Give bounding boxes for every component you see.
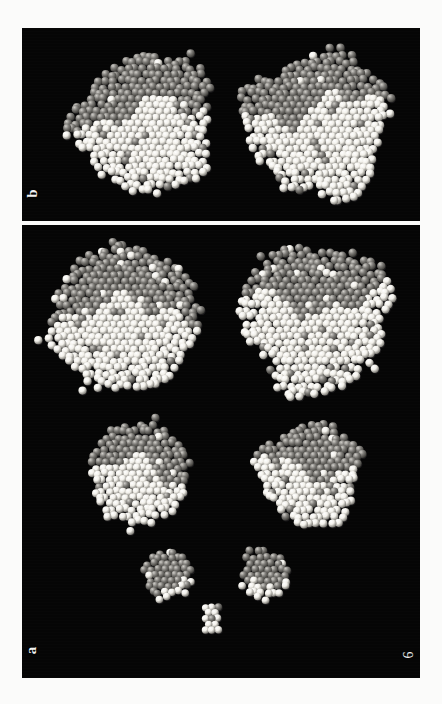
- cluster-a-3: [63, 397, 216, 550]
- panel-b: b: [22, 28, 420, 221]
- panel-a: a 6: [22, 225, 420, 678]
- cluster-a-4: [228, 392, 392, 556]
- cluster-a-1: [22, 225, 232, 426]
- cluster-a-7: [189, 596, 234, 641]
- figure-container: b a 6: [0, 0, 442, 704]
- panel-label-b: b: [25, 189, 40, 197]
- figure-number: 6: [402, 652, 416, 659]
- cluster-b-2: [207, 28, 420, 221]
- panel-label-a: a: [24, 647, 39, 655]
